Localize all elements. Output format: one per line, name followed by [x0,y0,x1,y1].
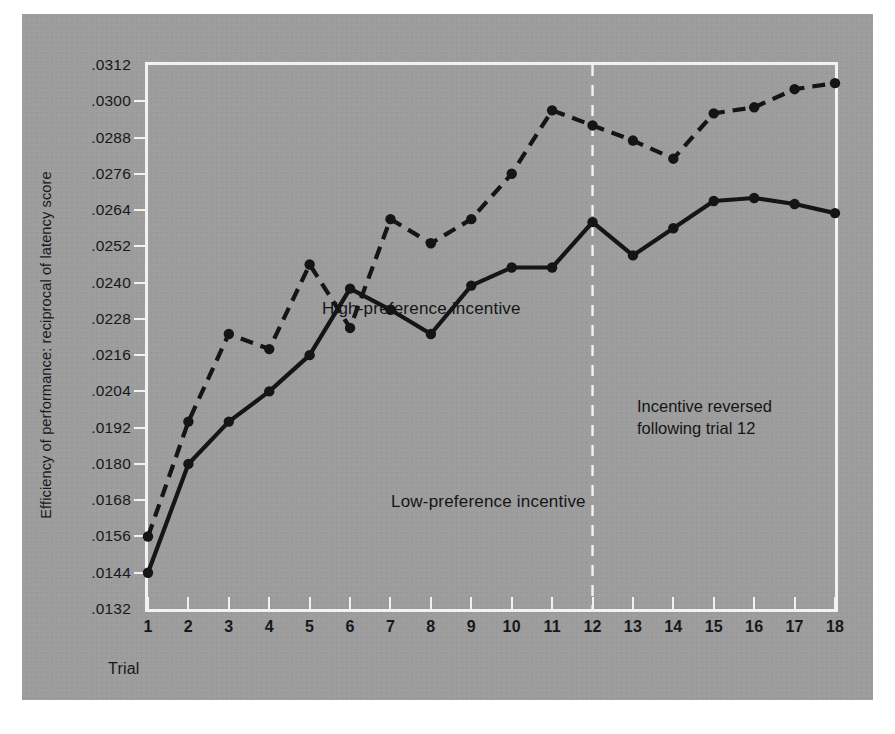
data-point [628,250,638,260]
data-point [668,223,678,233]
data-point [385,214,395,224]
x-tick-label: 15 [705,618,723,636]
data-point [547,105,557,115]
x-tick-label: 4 [265,618,274,636]
series-line-solid [148,198,835,573]
x-tick-label: 8 [426,618,435,636]
y-tick-label: .0240 [91,274,131,292]
data-point [264,344,274,354]
y-tick [134,245,145,247]
data-point [466,280,476,290]
y-tick-label: .0276 [91,165,131,183]
series-label-low-preference: Low-preference incentive [391,492,586,512]
y-tick [134,209,145,211]
y-tick-label: .0300 [91,92,131,110]
x-tick-label: 11 [543,618,560,636]
x-tick-label: 18 [826,618,844,636]
data-point [143,568,153,578]
x-tick-label: 9 [467,618,476,636]
x-tick-label: 17 [785,618,803,636]
x-tick-label: 7 [386,618,395,636]
y-axis-title: Efficiency of performance: reciprocal of… [38,171,54,518]
series-label-high-preference: High-preference incentive [322,299,521,319]
data-point [264,386,274,396]
data-point [345,283,355,293]
data-point [426,329,436,339]
x-axis-title: Trial [108,660,140,678]
y-tick [134,390,145,392]
plot-area: .0132.0144.0156.0168.0180.0192.0204.0216… [145,62,838,612]
data-point [143,531,153,541]
x-tick-label: 5 [305,618,314,636]
data-point [426,238,436,248]
x-tick-label: 3 [224,618,233,636]
data-point [749,102,759,112]
data-point [709,108,719,118]
data-point [345,323,355,333]
y-tick [134,463,145,465]
data-point [830,208,840,218]
y-tick [134,427,145,429]
data-point [183,459,193,469]
y-tick-label: .0192 [91,419,131,437]
reversal-annotation-line2: following trial 12 [637,418,772,440]
data-point [830,78,840,88]
data-point [183,416,193,426]
y-tick [134,282,145,284]
x-tick-label: 14 [664,618,682,636]
y-tick-label: .0252 [91,237,131,255]
x-tick-label: 12 [583,618,601,636]
data-point [789,199,799,209]
data-point [668,153,678,163]
reversal-annotation: Incentive reversed following trial 12 [637,396,772,440]
y-tick [134,354,145,356]
y-tick [134,173,145,175]
series-layer [145,62,838,612]
y-tick-label: .0132 [91,600,131,618]
data-point [587,217,597,227]
x-tick-label: 6 [345,618,354,636]
x-tick-label: 2 [184,618,193,636]
x-tick-label: 10 [503,618,521,636]
x-tick-label: 13 [624,618,642,636]
data-point [507,169,517,179]
y-tick [134,318,145,320]
y-tick [134,137,145,139]
y-tick-label: .0144 [91,564,131,582]
y-tick [134,100,145,102]
y-tick-label: .0312 [91,56,131,74]
figure-root: Efficiency of performance: reciprocal of… [0,0,895,734]
data-point [224,329,234,339]
data-point [304,350,314,360]
data-point [709,196,719,206]
y-tick-label: .0228 [91,310,131,328]
y-tick-label: .0204 [91,382,131,400]
data-point [507,262,517,272]
x-tick-label: 16 [745,618,763,636]
data-point [466,214,476,224]
data-point [224,416,234,426]
y-tick-label: .0156 [91,527,131,545]
y-tick-label: .0288 [91,129,131,147]
data-point [628,135,638,145]
data-point [304,259,314,269]
y-tick [134,499,145,501]
reversal-annotation-line1: Incentive reversed [637,396,772,418]
data-point [789,84,799,94]
y-tick-label: .0216 [91,346,131,364]
data-point [587,120,597,130]
x-tick-label: 1 [143,618,152,636]
y-tick-label: .0264 [91,201,131,219]
data-point [749,193,759,203]
data-point [547,262,557,272]
y-tick-label: .0180 [91,455,131,473]
y-tick-label: .0168 [91,491,131,509]
